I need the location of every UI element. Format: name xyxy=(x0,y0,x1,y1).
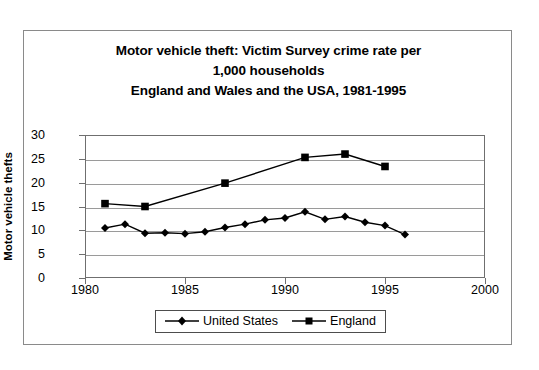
square-marker-icon xyxy=(292,315,326,327)
y-tick-label: 15 xyxy=(5,201,45,213)
chart-title-line-3: England and Wales and the USA, 1981-1995 xyxy=(24,81,513,101)
x-tick-label: 1990 xyxy=(255,283,315,297)
y-tick-label: 0 xyxy=(5,272,45,284)
chart-legend: United States England xyxy=(155,310,386,333)
y-tick-label: 5 xyxy=(5,248,45,260)
gridline xyxy=(86,255,484,256)
legend-label-england: England xyxy=(330,314,376,328)
y-tick-mark xyxy=(79,183,85,184)
chart-title-line-1: Motor vehicle theft: Victim Survey crime… xyxy=(24,41,513,61)
plot-area xyxy=(85,135,485,278)
x-tick-label: 1985 xyxy=(155,283,215,297)
chart-figure: Motor vehicle theft: Victim Survey crime… xyxy=(23,30,512,345)
legend-item-united-states[interactable]: United States xyxy=(165,314,278,328)
y-tick-mark xyxy=(79,230,85,231)
x-tick-label: 1980 xyxy=(55,283,115,297)
chart-title-line-2: 1,000 households xyxy=(24,61,513,81)
diamond-marker-icon xyxy=(165,315,199,327)
x-tick-label: 2000 xyxy=(455,283,515,297)
y-tick-label: 20 xyxy=(5,177,45,189)
gridline xyxy=(86,160,484,161)
y-tick-mark xyxy=(79,135,85,136)
gridline xyxy=(86,184,484,185)
legend-item-england[interactable]: England xyxy=(292,314,376,328)
y-tick-label: 10 xyxy=(5,224,45,236)
y-tick-label: 25 xyxy=(5,153,45,165)
legend-label-united-states: United States xyxy=(203,314,278,328)
y-tick-mark xyxy=(79,254,85,255)
y-tick-mark xyxy=(79,207,85,208)
chart-title: Motor vehicle theft: Victim Survey crime… xyxy=(24,41,513,101)
gridline xyxy=(86,208,484,209)
gridline xyxy=(86,231,484,232)
y-tick-label: 30 xyxy=(5,129,45,141)
y-tick-mark xyxy=(79,159,85,160)
x-tick-label: 1995 xyxy=(355,283,415,297)
